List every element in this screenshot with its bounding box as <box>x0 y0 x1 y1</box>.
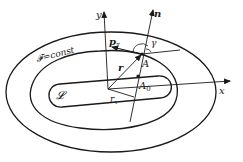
normal-label: n <box>154 8 161 19</box>
a0-sub: 0 <box>146 85 150 93</box>
y-axis-label: y <box>95 9 102 20</box>
tangent-line <box>142 50 180 54</box>
p-tau-sub: τ <box>116 41 120 49</box>
point-a0-label: A0 <box>138 80 151 93</box>
phase-portrait-diagram: y x n pτ γ A A0 r rτ 𝓕=const 𝓛 <box>0 0 243 162</box>
radius-label: r <box>118 62 124 73</box>
p-tau-main: p <box>109 36 116 47</box>
point-a0-dot <box>136 74 139 77</box>
x-axis <box>108 81 230 89</box>
point-a-dot <box>140 52 143 55</box>
a0-main: A <box>138 80 146 91</box>
level-curve-f-const <box>30 51 177 130</box>
x-axis-label: x <box>219 85 225 96</box>
radius-vector-r <box>108 55 141 89</box>
gamma-label: γ <box>151 38 157 48</box>
r-tau-label: rτ <box>110 94 118 105</box>
point-a-label: A <box>141 58 149 69</box>
gamma-angle-arc-small <box>146 49 151 52</box>
region-l-label: 𝓛 <box>56 89 67 102</box>
